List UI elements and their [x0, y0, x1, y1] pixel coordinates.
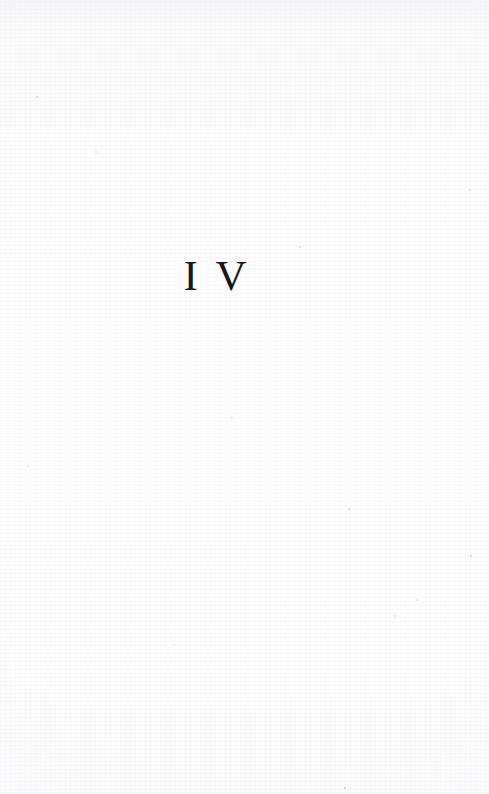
part-number-block: I V [0, 254, 434, 297]
scanned-page: I V [0, 0, 489, 794]
paper-background [0, 0, 489, 794]
part-roman-numeral: I V [184, 254, 251, 297]
